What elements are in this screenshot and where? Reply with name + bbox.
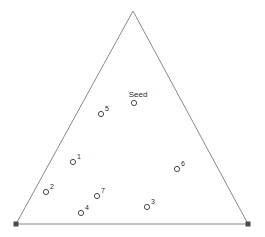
point-label-1: 1 — [77, 153, 81, 160]
triangle-boundary — [16, 11, 248, 224]
point-marker-6[interactable] — [174, 166, 179, 171]
point-label-seed: Seed — [129, 91, 148, 99]
point-label-2: 2 — [50, 183, 54, 190]
point-marker-4[interactable] — [78, 210, 83, 215]
diagram-vector-layer — [0, 0, 265, 237]
triangle-vertex-marker-bottom-left — [14, 222, 19, 227]
point-marker-7[interactable] — [94, 193, 99, 198]
point-marker-1[interactable] — [70, 159, 75, 164]
point-label-3: 3 — [151, 198, 155, 205]
point-marker-seed[interactable] — [131, 100, 136, 105]
triangle-vertex-marker-bottom-right — [246, 222, 251, 227]
point-label-5: 5 — [105, 105, 109, 112]
point-marker-3[interactable] — [144, 204, 149, 209]
point-label-7: 7 — [101, 187, 105, 194]
point-marker-5[interactable] — [98, 111, 103, 116]
point-marker-2[interactable] — [43, 189, 48, 194]
data-point-markers — [43, 100, 179, 215]
point-label-4: 4 — [85, 204, 89, 211]
diagram-canvas: Seed1234567 — [0, 0, 265, 237]
point-label-6: 6 — [181, 160, 185, 167]
